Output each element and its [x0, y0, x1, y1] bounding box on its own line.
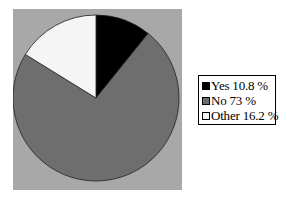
pie-chart — [13, 9, 182, 190]
legend-swatch-other — [202, 112, 210, 120]
legend-item-other: Other 16.2 % — [202, 108, 272, 123]
legend-swatch-yes — [202, 82, 210, 90]
plot-area — [13, 9, 182, 190]
legend-item-no: No 73 % — [202, 93, 272, 108]
legend-item-yes: Yes 10.8 % — [202, 78, 272, 93]
legend-swatch-no — [202, 97, 210, 105]
legend: Yes 10.8 % No 73 % Other 16.2 % — [198, 75, 276, 125]
